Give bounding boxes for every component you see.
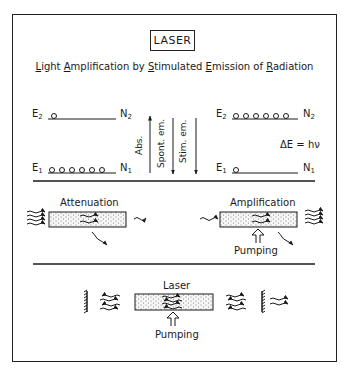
amplification-output-waves	[305, 210, 323, 224]
attenuation-scatter-wave	[92, 232, 107, 245]
attenuation-medium	[49, 212, 126, 227]
attenuation-output-wave	[134, 218, 146, 221]
right-upper-level	[232, 114, 298, 120]
attenuation-input-waves	[27, 211, 45, 225]
right-lower-level	[232, 168, 298, 174]
amplification-medium	[220, 212, 297, 227]
laser-pump-arrow	[167, 312, 179, 326]
diagram-graphics	[0, 0, 349, 371]
right-mirror	[262, 290, 265, 313]
laser-output-beam	[270, 298, 288, 305]
amplification-pump-arrow	[252, 229, 264, 243]
laser-right-waves	[226, 295, 246, 310]
amplification-scatter-wave	[278, 232, 293, 245]
left-upper-level	[48, 114, 116, 120]
laser-medium	[135, 294, 213, 310]
laser-left-waves	[100, 295, 120, 310]
left-mirror	[84, 290, 87, 313]
amplification-input-wave	[200, 218, 218, 221]
left-lower-level	[48, 168, 116, 174]
